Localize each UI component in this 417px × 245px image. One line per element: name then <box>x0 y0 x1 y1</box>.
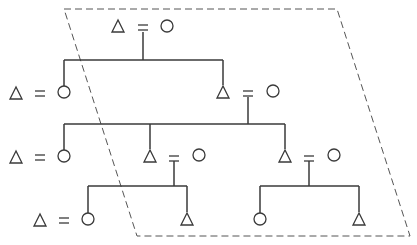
male-triangle-icon <box>279 150 291 162</box>
male-triangle-icon <box>10 151 22 163</box>
male-triangle-icon <box>353 213 365 225</box>
female-circle-icon <box>267 85 279 97</box>
male-triangle-icon <box>34 214 46 226</box>
male-triangle-icon <box>10 87 22 99</box>
female-circle-icon <box>58 86 70 98</box>
kinship-diagram <box>0 0 417 245</box>
female-circle-icon <box>161 20 173 32</box>
female-circle-icon <box>82 213 94 225</box>
male-triangle-icon <box>144 150 156 162</box>
female-circle-icon <box>328 149 340 161</box>
male-triangle-icon <box>181 213 193 225</box>
female-circle-icon <box>254 213 266 225</box>
female-circle-icon <box>193 149 205 161</box>
diagram-canvas <box>0 0 417 245</box>
female-circle-icon <box>58 150 70 162</box>
male-triangle-icon <box>217 86 229 98</box>
dashed-boundary <box>64 9 410 236</box>
male-triangle-icon <box>112 20 124 32</box>
